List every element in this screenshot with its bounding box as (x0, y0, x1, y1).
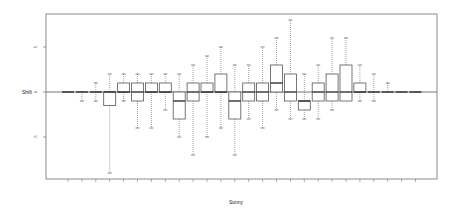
box-19 (312, 65, 324, 119)
box-body (159, 83, 171, 92)
box-9 (173, 74, 185, 137)
box-body (340, 65, 352, 101)
box-3 (90, 83, 102, 101)
box-body (201, 83, 213, 92)
box-body (354, 83, 366, 92)
box-body (284, 74, 296, 101)
box-body (104, 92, 116, 106)
box-20 (326, 38, 338, 110)
box-body (173, 92, 185, 119)
y-axis-label: Shift (22, 89, 33, 95)
box-12 (215, 47, 227, 128)
box-body (326, 74, 338, 101)
box-11 (201, 56, 213, 137)
box-body (229, 92, 241, 119)
box-2 (76, 92, 88, 101)
box-23 (368, 74, 380, 101)
box-body (271, 65, 283, 92)
y-tick-label: -5 (33, 134, 38, 138)
box-body (215, 74, 227, 92)
box-16 (271, 38, 283, 110)
box-5 (118, 74, 130, 101)
x-axis-label: Sunny (229, 199, 244, 205)
box-10 (187, 65, 199, 155)
box-body (145, 83, 157, 92)
box-17 (284, 20, 296, 119)
box-body (118, 83, 130, 92)
box-15 (257, 47, 269, 128)
boxes (62, 20, 422, 173)
y-tick-label: 0 (33, 90, 38, 93)
y-tick-label: 5 (33, 45, 38, 48)
box-13 (229, 65, 241, 155)
box-6 (132, 74, 144, 128)
box-body (298, 101, 310, 110)
y-axis: -505 (33, 45, 46, 139)
box-21 (340, 38, 352, 101)
box-22 (354, 65, 366, 101)
box-8 (159, 74, 171, 110)
box-14 (243, 65, 255, 119)
box-18 (298, 74, 310, 119)
box-plot: -505 Shift Sunny (0, 0, 458, 208)
box-24 (382, 83, 394, 92)
box-4 (104, 74, 116, 173)
box-7 (145, 74, 157, 128)
